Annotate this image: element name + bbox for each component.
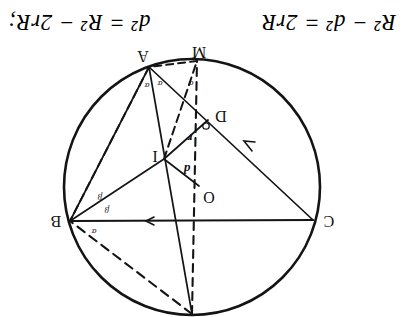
segment-IB (70, 159, 164, 221)
circumcircle (64, 59, 320, 315)
right-angle-at-D-icon (203, 123, 209, 129)
segment-label-d: d (183, 162, 190, 177)
vertex-label-I: I (152, 148, 157, 165)
segment-label-r: r (187, 131, 193, 146)
vertex-label-O: O (203, 189, 215, 206)
vertex-label-C: C (324, 213, 335, 230)
formula-caption-row: d² = R² − 2rR; R² − d² = 2rR (0, 0, 404, 45)
chord-NA (149, 67, 192, 314)
chord-CB (70, 220, 313, 221)
angle-label-beta-B-upper: β (104, 205, 110, 215)
formula-R-squared-minus-d-squared: R² − d² = 2rR (262, 11, 396, 34)
printed-plate-rotated: B C O I D M A d r α β β α α α d² = R² − … (0, 0, 404, 317)
vertex-label-B: B (51, 213, 62, 230)
chord-CA (149, 67, 313, 220)
figure-page: B C O I D M A d r α β β α α α d² = R² − … (0, 0, 404, 317)
angle-label-alpha-M: α (188, 79, 193, 89)
angle-label-alpha-A-left: α (157, 79, 162, 89)
vertex-label-M: M (192, 44, 206, 61)
formula-d-squared: d² = R² − 2rR; (8, 11, 151, 34)
euler-circle-diagram: B C O I D M A d r α β β α α α (0, 0, 404, 317)
diameter-NM (192, 61, 197, 314)
angle-label-alpha-A-right: α (144, 81, 149, 91)
angle-label-alpha-B-upper: α (91, 227, 96, 237)
tick-on-CA-icon (244, 141, 255, 151)
vertex-label-A: A (137, 48, 149, 65)
vertex-label-D: D (215, 108, 227, 125)
